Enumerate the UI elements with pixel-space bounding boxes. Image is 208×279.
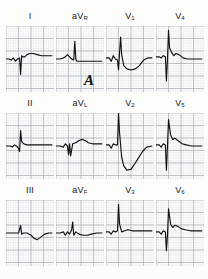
lead-label-V5: V5 [156,99,204,110]
ecg-trace-V4 [156,26,204,92]
lead-label-II: II [6,99,54,110]
ecg-row-2: II aVL V2 [0,99,208,179]
ecg-row-3: III aVF V3 [0,186,208,266]
ecg-trace-aVR [56,26,104,92]
ecg-trace-III [6,200,54,266]
lead-label-V4: V4 [156,12,204,23]
lead-label-V3: V3 [106,186,154,197]
lead-label-aVF: aVF [56,186,104,197]
ecg-trace-V2 [106,113,154,179]
figure-panel-letter: A [84,72,94,89]
ecg-trace-I [6,26,54,92]
lead-label-I: I [6,12,54,23]
ecg-trace-V1 [106,26,154,92]
ecg-trace-II [6,113,54,179]
lead-label-III: III [6,186,54,197]
ecg-trace-V3 [106,200,154,266]
ecg-row-1: I aVR V1 [0,12,208,92]
ecg-trace-aVL [56,113,104,179]
lead-label-aVL: aVL [56,99,104,110]
lead-label-V6: V6 [156,186,204,197]
ecg-trace-aVF [56,200,104,266]
lead-label-aVR: aVR [56,12,104,23]
lead-label-V1: V1 [106,12,154,23]
ecg-sheet: I aVR V1 [0,0,208,279]
lead-label-V2: V2 [106,99,154,110]
ecg-trace-V5 [156,113,204,179]
ecg-trace-V6 [156,200,204,266]
